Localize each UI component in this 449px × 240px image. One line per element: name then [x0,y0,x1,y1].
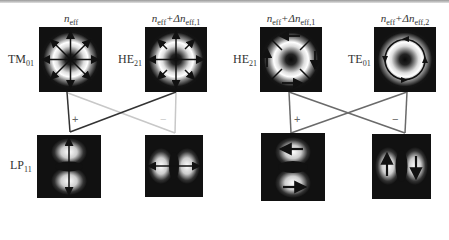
minus-sign-right: − [392,113,398,125]
mode-lp11-vertical-opposed [261,133,325,201]
mode-lp11-horizontal-opposed [372,134,431,199]
mode-tm01 [39,27,102,92]
mode-te01 [374,27,436,92]
plus-sign-right: + [294,113,300,125]
plus-sign-left: + [72,113,78,125]
mode-lp11-horizontal [145,135,203,197]
minus-sign-left: − [160,113,166,125]
mode-he21-rotated [260,27,322,92]
mode-lp11-vertical [37,135,101,198]
mode-he21 [145,27,207,92]
